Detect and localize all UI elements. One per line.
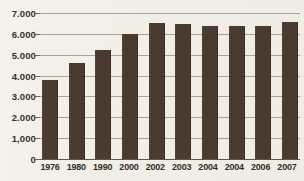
bar	[202, 26, 218, 159]
bar	[175, 24, 191, 159]
x-axis-tick-label: 2003	[171, 162, 193, 178]
bar-chart: 7.0006.0005.0004.0003.0002.0001,0000 197…	[0, 0, 304, 181]
bar-series	[40, 13, 300, 159]
y-axis-tick-label: 1,000	[12, 133, 36, 144]
x-axis-tick-label: 2004	[197, 162, 219, 178]
x-axis-tick-label: 2004	[223, 162, 245, 178]
x-axis-tick-label: 2002	[144, 162, 166, 178]
x-axis-labels: 1976198019902000200220032004200420062007	[40, 162, 300, 178]
bar	[229, 26, 245, 159]
bar	[282, 22, 298, 159]
y-tick-0	[35, 159, 40, 160]
y-axis-tick-label: 2.000	[12, 112, 36, 123]
y-axis-tick-label: 7.000	[12, 8, 36, 19]
y-axis-labels: 7.0006.0005.0004.0003.0002.0001,0000	[0, 13, 36, 159]
x-axis-tick-label: 2000	[118, 162, 140, 178]
x-axis-tick-label: 2006	[250, 162, 272, 178]
y-axis-tick-label: 4.000	[12, 70, 36, 81]
y-axis-tick-label: 6.000	[12, 28, 36, 39]
bar	[255, 26, 271, 159]
bar	[42, 80, 58, 159]
x-axis-tick-label: 1976	[39, 162, 61, 178]
x-axis-tick-label: 1990	[92, 162, 114, 178]
y-axis-tick-label: 3.000	[12, 91, 36, 102]
y-axis-tick-label: 5.000	[12, 49, 36, 60]
bar	[69, 63, 85, 159]
bar	[95, 50, 111, 160]
gridline-0	[40, 159, 300, 160]
x-axis-tick-label: 2007	[276, 162, 298, 178]
bar	[149, 23, 165, 159]
bar	[122, 34, 138, 159]
x-axis-tick-label: 1980	[65, 162, 87, 178]
